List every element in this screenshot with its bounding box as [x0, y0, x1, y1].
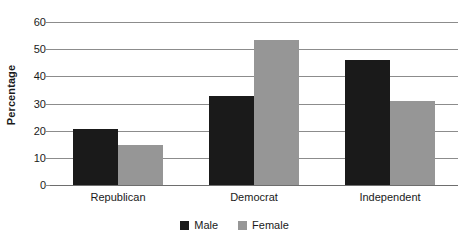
y-axis-tick-label: 30	[24, 98, 46, 109]
legend-label: Female	[252, 220, 289, 231]
y-axis-title: Percentage	[0, 0, 22, 190]
y-axis-tick-label: 40	[24, 71, 46, 82]
y-axis-tick-label: 0	[24, 180, 46, 191]
x-axis-category-labels: RepublicanDemocratIndependent	[50, 190, 458, 206]
bar-democrat-female	[254, 40, 299, 185]
y-axis-tick-label: 50	[24, 44, 46, 55]
chart-legend: MaleFemale	[0, 215, 469, 235]
axis-baseline	[50, 185, 458, 186]
bar-independent-male	[345, 60, 390, 185]
y-axis-tick-label: 20	[24, 125, 46, 136]
y-axis-tick	[45, 185, 50, 186]
plot-area	[50, 22, 458, 185]
bar-republican-male	[73, 129, 118, 185]
y-axis-tick-labels: 0102030405060	[24, 0, 46, 248]
x-axis-label-democrat: Democrat	[230, 190, 278, 204]
bars-layer	[50, 22, 458, 185]
y-axis-title-text: Percentage	[5, 65, 17, 125]
legend-item-male[interactable]: Male	[180, 220, 218, 231]
legend-item-female[interactable]: Female	[238, 220, 289, 231]
legend-swatch-icon	[180, 221, 189, 230]
y-axis-tick-label: 10	[24, 152, 46, 163]
bar-democrat-male	[209, 96, 254, 185]
y-axis-tick-label: 60	[24, 17, 46, 28]
legend-label: Male	[194, 220, 218, 231]
x-axis-label-independent: Independent	[359, 190, 420, 204]
bar-independent-female	[390, 101, 435, 185]
bar-chart: Percentage 0102030405060 RepublicanDemoc…	[0, 0, 469, 248]
x-axis-label-republican: Republican	[90, 190, 145, 204]
bar-republican-female	[118, 145, 163, 185]
legend-swatch-icon	[238, 221, 247, 230]
